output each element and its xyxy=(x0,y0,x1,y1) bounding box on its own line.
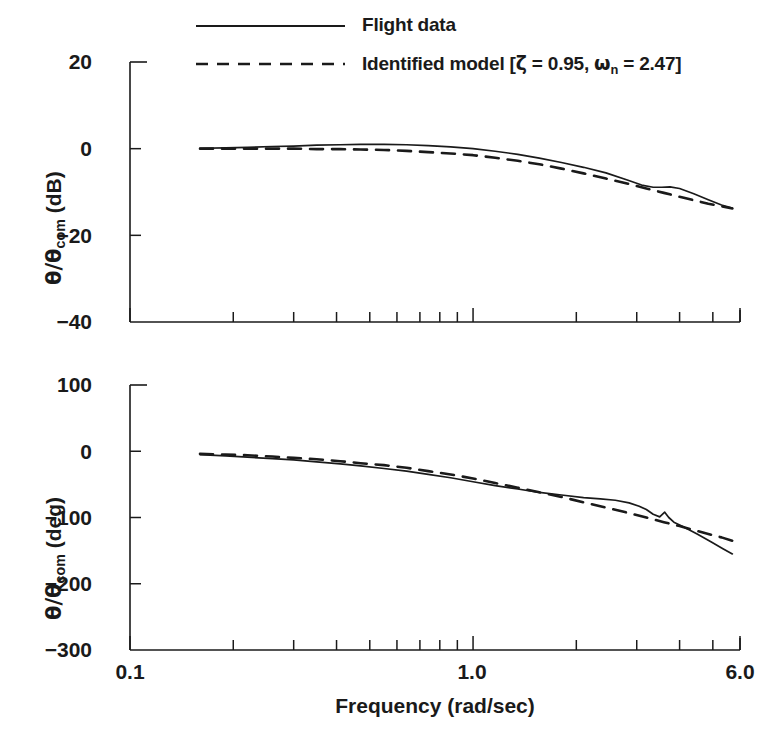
legend-swatches xyxy=(196,26,345,64)
magnitude-ytick-0: 0 xyxy=(80,137,92,161)
xtick-6.0: 6.0 xyxy=(725,660,754,684)
magnitude-curve-identified-model xyxy=(200,149,732,209)
omega-symbol: ω xyxy=(594,52,610,74)
xtick-1.0: 1.0 xyxy=(457,660,486,684)
omega-subscript: n xyxy=(610,62,618,77)
omega-value: = 2.47] xyxy=(618,53,681,74)
magnitude-yaxis-subscript: com xyxy=(52,219,68,248)
phase-ytick-100: 100 xyxy=(57,373,92,397)
magnitude-data-curves xyxy=(200,144,732,208)
magnitude-yaxis-title: θ/θcom (dB) xyxy=(42,171,68,285)
zeta-symbol: ζ xyxy=(516,52,527,74)
phase-ytick-0: 0 xyxy=(80,440,92,464)
xaxis-title: Frequency (rad/sec) xyxy=(335,694,535,718)
phase-data-curves xyxy=(200,454,732,554)
magnitude-tick-marks xyxy=(130,149,740,322)
phase-yaxis-title: θ/θcom (deg) xyxy=(42,497,68,620)
phase-curve-identified-model xyxy=(200,454,732,541)
legend-label-identified-model: Identified model [ζ = 0.95, ωn = 2.47] xyxy=(362,52,682,77)
legend-model-prefix: Identified model [ xyxy=(362,53,516,74)
phase-yaxis-unit: (deg) xyxy=(42,497,65,554)
plot-canvas xyxy=(0,0,766,733)
magnitude-ytick-neg40: −40 xyxy=(56,310,92,334)
phase-tick-marks xyxy=(130,451,740,650)
phase-yaxis-subscript: com xyxy=(52,554,68,583)
phase-ytick-neg300: −300 xyxy=(45,638,92,662)
phase-axes-frame xyxy=(130,385,740,650)
phase-yaxis-numerator: θ/θ xyxy=(42,583,66,620)
legend-label-flight-data: Flight data xyxy=(362,14,456,36)
magnitude-yaxis-numerator: θ/θ xyxy=(42,248,66,285)
bode-plot-figure: Flight data Identified model [ζ = 0.95, … xyxy=(0,0,766,733)
magnitude-axes-frame xyxy=(130,62,740,322)
magnitude-yaxis-unit: (dB) xyxy=(42,171,65,219)
zeta-value: = 0.95, xyxy=(527,53,594,74)
xtick-0.1: 0.1 xyxy=(115,660,144,684)
magnitude-ytick-20: 20 xyxy=(69,50,92,74)
phase-curve-flight-data xyxy=(200,455,732,554)
